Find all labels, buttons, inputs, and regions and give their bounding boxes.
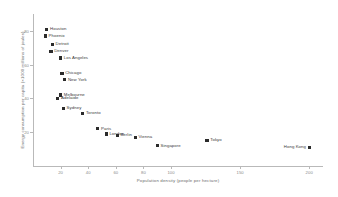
y-axis-line bbox=[33, 14, 34, 166]
point-marker bbox=[60, 72, 63, 75]
x-tick-label: 80 bbox=[141, 170, 146, 175]
point-marker bbox=[205, 139, 208, 142]
point-marker bbox=[45, 28, 48, 31]
y-tick-mark bbox=[30, 65, 33, 66]
point-marker bbox=[44, 34, 47, 37]
point-label: Detroit bbox=[56, 42, 69, 46]
x-tick-mark bbox=[309, 166, 310, 169]
point-label: Denver bbox=[54, 49, 68, 53]
point-label: Vienna bbox=[138, 135, 152, 139]
x-axis-line bbox=[33, 166, 323, 167]
point-marker bbox=[81, 112, 84, 115]
x-tick-mark bbox=[88, 166, 89, 169]
point-label: Chicago bbox=[65, 71, 81, 75]
x-tick-mark bbox=[116, 166, 117, 169]
point-marker bbox=[51, 43, 54, 46]
point-marker bbox=[116, 134, 119, 137]
point-marker bbox=[49, 50, 52, 53]
point-label: Phoenix bbox=[49, 34, 65, 38]
point-label: Hong Kong bbox=[284, 145, 306, 149]
point-marker bbox=[308, 146, 311, 149]
point-label: Singapore bbox=[160, 144, 180, 148]
point-marker bbox=[96, 127, 99, 130]
x-tick-label: 150 bbox=[236, 170, 243, 175]
y-tick-mark bbox=[30, 98, 33, 99]
point-marker bbox=[63, 78, 66, 81]
point-label: New York bbox=[68, 78, 87, 82]
point-marker bbox=[105, 132, 108, 135]
x-tick-mark bbox=[240, 166, 241, 169]
y-tick-mark bbox=[30, 31, 33, 32]
point-label: Sydney bbox=[67, 106, 82, 110]
point-marker bbox=[134, 136, 137, 139]
point-label: Tokyo bbox=[210, 138, 222, 142]
point-marker bbox=[156, 144, 159, 147]
scatter-chart: 20406080 20406080100150200 HoustonPhoeni… bbox=[0, 0, 338, 197]
x-tick-label: 60 bbox=[113, 170, 118, 175]
point-marker bbox=[59, 56, 62, 59]
x-tick-mark bbox=[61, 166, 62, 169]
point-marker bbox=[56, 97, 59, 100]
point-label: Los Angeles bbox=[64, 56, 88, 60]
plot-area: 20406080 20406080100150200 HoustonPhoeni… bbox=[33, 14, 323, 166]
x-tick-label: 20 bbox=[58, 170, 63, 175]
point-label: Houston bbox=[50, 27, 67, 31]
x-axis-title: Population density (people per hectare) bbox=[33, 178, 323, 183]
point-label: Adelaide bbox=[61, 96, 78, 100]
y-tick-mark bbox=[30, 132, 33, 133]
y-axis-title: Energy consumption per capita (×1000 mil… bbox=[20, 14, 30, 166]
point-label: Toronto bbox=[86, 111, 101, 115]
x-tick-label: 40 bbox=[86, 170, 91, 175]
point-marker bbox=[62, 107, 65, 110]
x-tick-label: 200 bbox=[306, 170, 313, 175]
x-tick-mark bbox=[171, 166, 172, 169]
point-label: Berlin bbox=[120, 133, 131, 137]
x-tick-mark bbox=[143, 166, 144, 169]
x-tick-label: 100 bbox=[167, 170, 174, 175]
